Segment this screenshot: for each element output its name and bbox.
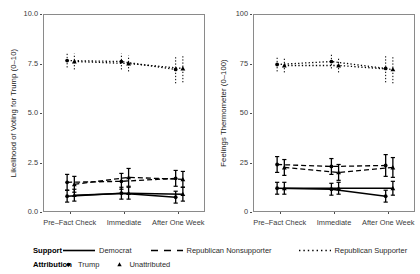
- triangle-marker: [118, 262, 122, 266]
- y-tick-mark: [40, 14, 42, 15]
- legend-item-label: Trump: [78, 260, 99, 269]
- data-point-unattributed: [72, 59, 77, 63]
- legend-item[interactable]: Unattributed: [113, 260, 170, 269]
- y-tick-mark: [250, 212, 252, 213]
- x-tick-mark: [70, 212, 71, 214]
- panel-feelings-thermometer: Feelings Thermometer (0–100) 0255075100 …: [210, 0, 420, 243]
- plot-area-left: [43, 14, 205, 212]
- x-tick-mark: [280, 212, 281, 214]
- data-point-trump: [174, 176, 178, 180]
- legend-item[interactable]: Republican Nonsupporter: [150, 246, 272, 255]
- data-point-trump: [65, 59, 69, 63]
- dashed-line-icon: [150, 246, 184, 255]
- data-point-trump: [330, 60, 334, 64]
- y-tick-mark: [250, 163, 252, 164]
- legend-item-label: Republican Nonsupporter: [187, 246, 272, 255]
- x-tick-mark: [178, 212, 179, 214]
- solid-line-icon: [62, 246, 96, 255]
- y-tick-label: 7.5: [14, 59, 38, 68]
- y-tick-mark: [250, 14, 252, 15]
- data-point-trump: [65, 180, 69, 184]
- y-tick-label: 50: [224, 108, 248, 117]
- data-point-trump: [65, 194, 69, 198]
- y-tick-mark: [40, 212, 42, 213]
- triangle-marker-icon: [113, 260, 126, 269]
- data-point-trump: [384, 194, 388, 198]
- legend-title-support: Support: [0, 246, 62, 255]
- y-tick-label: 5.0: [14, 108, 38, 117]
- legend-item[interactable]: Democrat: [62, 246, 132, 255]
- y-tick-mark: [40, 163, 42, 164]
- data-point-trump: [330, 165, 334, 169]
- legend-item-label: Democrat: [99, 246, 132, 255]
- y-tick-label: 2.5: [14, 158, 38, 167]
- data-point-trump: [275, 163, 279, 167]
- data-point-trump: [174, 195, 178, 199]
- data-point-unattributed: [390, 67, 395, 71]
- data-point-unattributed: [180, 66, 185, 70]
- plot-area-right: [253, 14, 415, 212]
- legend-row-support: Support DemocratRepublican NonsupporterR…: [0, 243, 420, 257]
- y-tick-mark: [250, 64, 252, 65]
- y-tick-label: 0.0: [14, 207, 38, 216]
- x-tick-label: After One Week: [141, 218, 215, 227]
- y-tick-mark: [40, 113, 42, 114]
- data-point-unattributed: [282, 63, 287, 67]
- legend-item-label: Republican Supporter: [335, 246, 408, 255]
- panel-likelihood-voting: Likelihood of Voting for Trump (0–10) 0.…: [0, 0, 210, 243]
- x-tick-mark: [124, 212, 125, 214]
- plot-svg-left: [44, 15, 206, 213]
- y-tick-label: 10.0: [14, 9, 38, 18]
- chart-figure: Likelihood of Voting for Trump (0–10) 0.…: [0, 0, 420, 274]
- legend-title-attribution: Attribution: [0, 260, 62, 269]
- y-tick-label: 75: [224, 59, 248, 68]
- y-tick-label: 25: [224, 158, 248, 167]
- data-point-trump: [275, 63, 279, 67]
- y-tick-mark: [40, 64, 42, 65]
- dotted-line-icon: [298, 246, 332, 255]
- y-tick-label: 100: [224, 9, 248, 18]
- data-point-trump: [275, 186, 279, 190]
- data-point-trump: [384, 164, 388, 168]
- x-tick-mark: [388, 212, 389, 214]
- x-tick-mark: [334, 212, 335, 214]
- legend-row-attribution: Attribution TrumpUnattributed: [0, 257, 420, 271]
- circle-marker-icon: [62, 260, 75, 269]
- chart-legend: Support DemocratRepublican NonsupporterR…: [0, 240, 420, 274]
- y-tick-mark: [250, 113, 252, 114]
- circle-marker: [67, 262, 71, 266]
- plot-svg-right: [254, 15, 416, 213]
- x-tick-label: After One Week: [351, 218, 420, 227]
- legend-item[interactable]: Republican Supporter: [298, 246, 408, 255]
- data-point-trump: [120, 179, 124, 183]
- legend-item[interactable]: Trump: [62, 260, 99, 269]
- y-tick-label: 0: [224, 207, 248, 216]
- legend-item-label: Unattributed: [129, 260, 170, 269]
